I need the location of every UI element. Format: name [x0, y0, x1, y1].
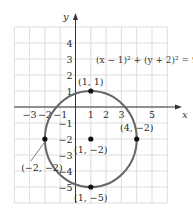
y-tick-label: 3	[66, 54, 72, 65]
y-tick-label: −1	[58, 118, 72, 129]
x-axis-label: x	[182, 109, 188, 120]
x-tick-label: 2	[103, 109, 109, 120]
point-label: (1, −5)	[74, 192, 108, 203]
point-label: (4, −2)	[120, 122, 154, 133]
data-points: (1, 1)(1, −2)(4, −2)(−2, −2)(1, −5)	[21, 76, 153, 203]
data-point	[88, 88, 93, 93]
point-label: (1, −2)	[74, 144, 108, 155]
y-tick-label: −3	[58, 150, 72, 161]
leader-line	[31, 143, 44, 161]
y-tick-label: 4	[66, 38, 72, 49]
y-tick-label: 2	[66, 70, 72, 81]
data-point	[134, 136, 139, 141]
x-tick-label: −3	[23, 109, 37, 120]
x-tick-label: 5	[149, 109, 155, 120]
y-axis-arrow-icon	[73, 13, 78, 20]
data-point	[88, 184, 93, 189]
y-tick-label: −2	[58, 134, 72, 145]
data-point	[42, 136, 47, 141]
axes	[14, 13, 182, 203]
data-point	[88, 136, 93, 141]
x-tick-label: 1	[88, 109, 94, 120]
circle-graph: −3−2−112354321−1−2−3−4−5 (1, 1)(1, −2)(4…	[0, 0, 193, 211]
point-label: (1, 1)	[78, 76, 104, 87]
x-axis-arrow-icon	[175, 105, 182, 110]
y-axis-label: y	[62, 11, 69, 22]
x-tick-label: 3	[118, 109, 124, 120]
point-label: (−2, −2)	[21, 162, 62, 173]
equation-label: (x − 1)² + (y + 2)² = 9	[96, 55, 193, 65]
